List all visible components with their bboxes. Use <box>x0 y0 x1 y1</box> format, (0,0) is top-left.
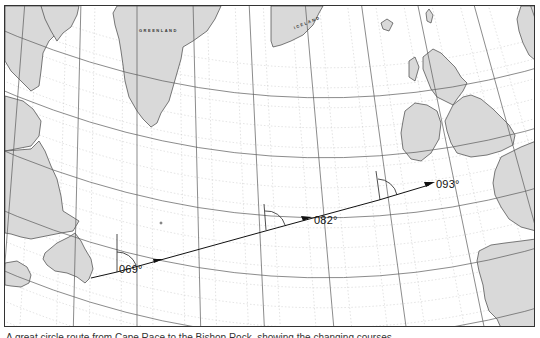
bearing-label-2: 082° <box>314 214 338 226</box>
angle-arc-2 <box>265 211 285 225</box>
land-norway <box>517 6 535 61</box>
land-quebec <box>5 261 31 287</box>
land-ireland <box>401 103 441 161</box>
land-shetland <box>426 9 433 23</box>
land-iberia <box>477 239 535 327</box>
land-azores <box>160 222 162 224</box>
north-reference-2 <box>264 204 266 230</box>
bearing-label-1: 069° <box>119 263 143 275</box>
land-faroe <box>381 19 393 31</box>
land-scotland <box>423 49 467 105</box>
bearing-label-3: 093° <box>436 178 460 190</box>
land-labrador-north <box>5 96 41 151</box>
north-reference-3 <box>376 171 380 200</box>
arrow-icon <box>153 259 163 263</box>
chart-map <box>5 6 535 327</box>
land-france <box>493 141 535 231</box>
map-caption: A great circle route from Cape Race to t… <box>6 329 536 338</box>
bearing-constructions <box>117 171 397 272</box>
land-masses <box>5 6 535 327</box>
land-greenland <box>113 6 221 127</box>
map-frame: GREENLAND ICELAND 069° 082° 093° <box>4 5 535 327</box>
label-greenland: GREENLAND <box>139 28 178 33</box>
land-england <box>445 95 515 157</box>
